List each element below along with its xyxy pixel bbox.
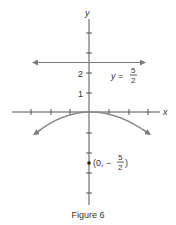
figure-caption: Figure 6 <box>0 210 176 220</box>
parabola-curve <box>36 112 148 133</box>
directrix-label: y = 5 2 <box>110 66 137 85</box>
svg-text:(0, −: (0, − <box>93 158 111 168</box>
y-axis-label: y <box>84 8 90 18</box>
svg-text:2: 2 <box>118 163 123 172</box>
x-axis-label: x <box>162 107 168 117</box>
svg-text:y =: y = <box>110 71 123 81</box>
svg-text:5: 5 <box>131 66 136 75</box>
focus-label: (0, − 5 2 ) <box>93 153 128 172</box>
parabola-figure: x y 2 1 y = 5 2 (0, − 5 <box>0 0 176 225</box>
svg-text:2: 2 <box>131 76 136 85</box>
svg-text:): ) <box>125 158 128 168</box>
svg-text:5: 5 <box>118 153 123 162</box>
focus-point <box>87 161 91 165</box>
y-tick-label-1: 1 <box>78 89 83 99</box>
y-tick-label-2: 2 <box>78 69 83 79</box>
y-axis: y 2 1 <box>78 8 92 205</box>
